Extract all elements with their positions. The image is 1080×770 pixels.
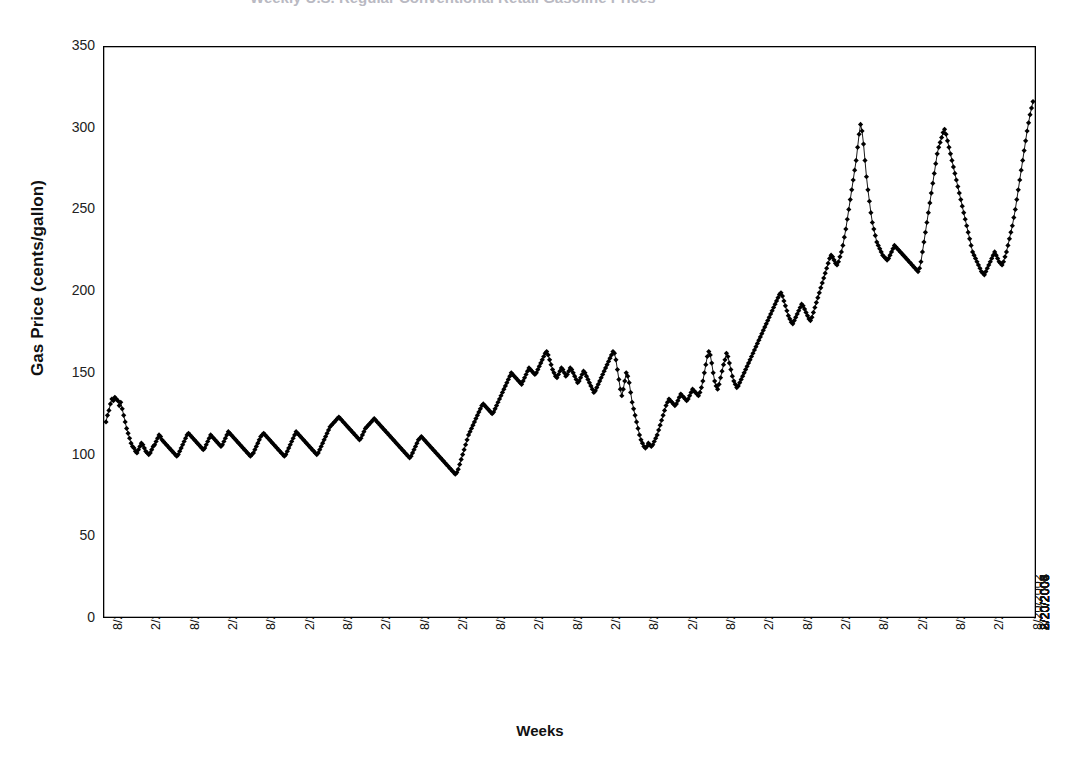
y-tick-label: 200 xyxy=(49,282,95,298)
y-tick-label: 0 xyxy=(49,609,95,625)
chart-title: Weekly U.S. Regular Conventional Retail … xyxy=(250,0,656,6)
y-tick-label: 50 xyxy=(49,527,95,543)
y-tick-label: 300 xyxy=(49,119,95,135)
y-tick-label: 350 xyxy=(49,37,95,53)
y-axis-title: Gas Price (cents/gallon) xyxy=(28,163,48,393)
y-tick-label: 150 xyxy=(49,364,95,380)
plot-border xyxy=(104,47,1036,618)
y-tick-label: 250 xyxy=(49,200,95,216)
x-tick-label: 2/20/2007 xyxy=(1038,574,1052,630)
x-axis-title: Weeks xyxy=(0,722,1080,739)
cropped-title-strip: Weekly U.S. Regular Conventional Retail … xyxy=(0,0,1080,10)
plot-area xyxy=(103,46,1036,618)
chart-page: Weekly U.S. Regular Conventional Retail … xyxy=(0,0,1080,770)
price-line-chart xyxy=(103,46,1036,618)
y-tick-label: 100 xyxy=(49,446,95,462)
